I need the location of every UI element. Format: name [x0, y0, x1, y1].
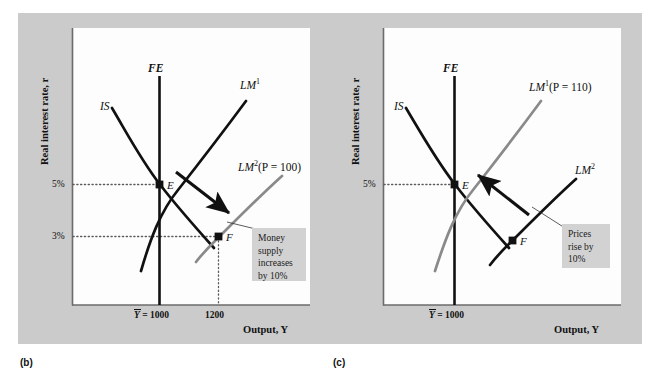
panel-b-point-e-label: E: [167, 180, 174, 191]
panel-b-guide-lines: [73, 185, 219, 306]
panel-c-lm1-label-suffix: (P = 110): [549, 81, 592, 93]
panel-b-lm1-label-sup: 1: [256, 77, 260, 86]
panel-c-xtick-1000: Y = 1000: [429, 311, 464, 321]
caption-panel-b: (b): [20, 357, 33, 368]
panel-b-is-label: IS: [100, 101, 110, 113]
panel-b-lm2-label-text: LM: [238, 161, 254, 173]
panel-b-xtick-1200: 1200: [205, 311, 224, 321]
panel-b-point-e-marker: [156, 181, 164, 189]
panel-c-lm2-label: LM2: [575, 163, 595, 176]
panel-b-xtick-1000: Y = 1000: [134, 311, 169, 321]
panel-b-point-f-marker: [215, 233, 223, 241]
panel-b-fe-label: FE: [148, 63, 163, 75]
panel-c-y-axis-title: Real interest rate, r: [351, 78, 362, 165]
figure-root: Real interest rate, r Output, Y 5% 3% Y …: [0, 0, 660, 390]
panel-b-lm2-label-suffix: (P = 100): [258, 161, 301, 173]
panel-c-point-e-marker: [451, 181, 459, 189]
panel-c-lm1-label-text: LM: [529, 81, 545, 93]
panel-c-is-curve: [406, 108, 509, 248]
panel-b-lm2-label: LM2(P = 100): [238, 160, 301, 173]
panel-b-ytick-3: 3%: [52, 232, 65, 242]
panel-b-ytick-5: 5%: [52, 180, 65, 190]
panel-c-point-f-marker: [509, 237, 517, 245]
caption-panel-c: (c): [333, 357, 345, 368]
panel-c-x-axis-title: Output, Y: [554, 325, 599, 336]
panel-b-lm1-label: LM1: [240, 78, 260, 91]
panel-c-is-label: IS: [394, 101, 404, 113]
panel-b-annotation: Money supply increases by 10%: [252, 228, 306, 281]
panel-b-x-axis-title: Output, Y: [243, 325, 288, 336]
panel-b-shift-arrow: [176, 172, 229, 213]
panel-c-point-e-label: E: [462, 180, 469, 191]
panel-c-shift-arrow: [478, 175, 529, 215]
panel-c-lm2-label-sup: 2: [591, 162, 595, 171]
panel-b-y-axis-title: Real interest rate, r: [40, 78, 51, 165]
panel-c-ytick-5: 5%: [363, 180, 376, 190]
panel-c-annotation: Prices rise by 10%: [562, 224, 610, 268]
panel-b-lm1-label-text: LM: [240, 79, 256, 91]
panel-b-is-curve: [112, 108, 214, 248]
panel-c-fe-label: FE: [443, 63, 458, 75]
panel-c-lm1-label: LM1(P = 110): [529, 80, 592, 93]
panel-c-lm2-label-text: LM: [575, 164, 591, 176]
panel-c-point-f-label: F: [520, 236, 527, 247]
panel-b-point-f-label: F: [226, 232, 233, 243]
